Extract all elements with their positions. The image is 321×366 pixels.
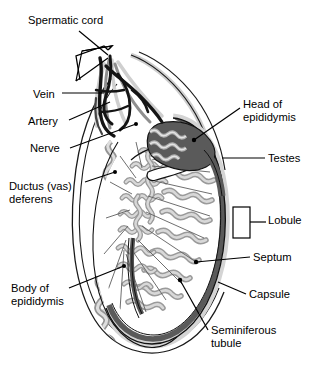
label-head-of-epididymis: Head of epididymis — [243, 98, 296, 123]
label-nerve: Nerve — [30, 142, 60, 155]
leader-spermatic-cord — [79, 31, 108, 55]
label-capsule: Capsule — [249, 288, 290, 301]
label-vein: Vein — [33, 88, 55, 101]
label-lobule: Lobule — [268, 214, 302, 227]
label-testes: Testes — [268, 152, 300, 165]
label-septum: Septum — [253, 251, 292, 264]
label-artery: Artery — [28, 115, 58, 128]
anatomical-diagram: Spermatic cord Vein Artery Nerve Ductus … — [0, 0, 321, 366]
label-spermatic-cord: Spermatic cord — [28, 14, 103, 27]
label-ductus-vas-deferens: Ductus (vas) deferens — [9, 180, 72, 205]
label-seminiferous-tubule: Seminiferous tubule — [211, 324, 276, 349]
lobule-bracket — [233, 207, 250, 238]
label-body-of-epididymis: Body of epididymis — [11, 282, 64, 307]
